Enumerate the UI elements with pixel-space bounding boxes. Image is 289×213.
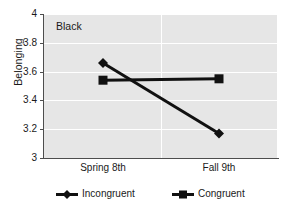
- legend-label-congruent: Congruent: [198, 188, 245, 200]
- series-layer: [44, 14, 278, 158]
- square-marker-icon: [179, 190, 187, 198]
- y-tick-label: 3.4: [23, 95, 37, 105]
- legend-label-incongruent: Incongruent: [82, 188, 135, 200]
- legend-item-incongruent[interactable]: Incongruent: [56, 188, 135, 200]
- y-axis-tick-labels: 4 3.8 3.6 3.4 3.2 3: [0, 14, 40, 158]
- y-tick-label: 3.8: [23, 38, 37, 48]
- plot-area: Black: [44, 14, 278, 158]
- x-axis-tick-labels: Spring 8th Fall 9th: [44, 162, 278, 178]
- series-line-incongruent: [103, 63, 219, 134]
- square-marker-icon: [215, 74, 224, 83]
- x-tick-label: Fall 9th: [203, 162, 236, 174]
- y-tick-label: 3: [31, 153, 37, 163]
- x-tick-label: Spring 8th: [80, 162, 126, 174]
- legend-swatch-incongruent: [56, 189, 78, 200]
- diamond-marker-icon: [63, 190, 72, 199]
- y-tick-label: 4: [31, 9, 37, 19]
- series-congruent: [99, 74, 224, 84]
- series-incongruent: [98, 58, 224, 139]
- chart-legend: Incongruent Congruent: [44, 188, 278, 206]
- legend-item-congruent[interactable]: Congruent: [172, 188, 245, 200]
- interaction-line-chart: Belonging 4 3.8 3.6 3.4 3.2 3 Black: [0, 0, 289, 213]
- y-tick-label: 3.6: [23, 67, 37, 77]
- y-tick-label: 3.2: [23, 124, 37, 134]
- series-line-congruent: [103, 79, 219, 80]
- x-axis-line: [41, 158, 279, 159]
- legend-swatch-congruent: [172, 189, 194, 200]
- square-marker-icon: [99, 76, 108, 85]
